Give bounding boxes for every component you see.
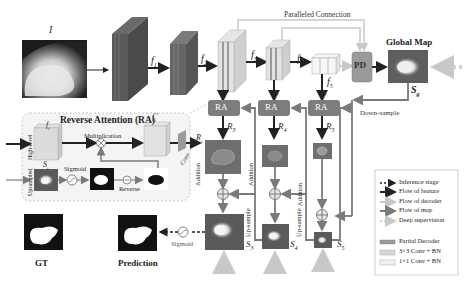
r5-map: [313, 143, 332, 159]
legend-label-inference: Inference stage: [399, 178, 439, 185]
s4-label: S4: [290, 239, 298, 251]
prediction-label: Prediction: [118, 258, 158, 268]
arrow-down-sample: [354, 83, 408, 100]
global-map-image: [388, 50, 428, 83]
multiplication-icon: [97, 139, 106, 148]
s5-map: [314, 232, 332, 248]
addition-4: [270, 189, 281, 200]
ra-sigmoid-label: Sigmoid: [64, 165, 86, 172]
prediction-image: [118, 215, 157, 251]
encoder-block-5: [312, 54, 340, 74]
ra5-label: RA: [315, 102, 328, 112]
sigmoid-icon-bottom: [178, 227, 188, 237]
legend-label-deep-supervision: Deep supervision: [399, 216, 444, 223]
label-f5: f5: [327, 76, 333, 89]
ra-fi-label: fi: [46, 120, 50, 131]
encoder-block-2: [170, 31, 198, 95]
global-map-symbol: Sg: [411, 84, 420, 97]
legend-swatch-partial-decoder: [380, 240, 395, 244]
ra-reverse-icon: [123, 176, 131, 184]
ra-si-map: [34, 169, 58, 191]
label-f3: f3: [251, 49, 257, 62]
ra-sigmoid-icon: [67, 175, 77, 185]
s3-label: S3: [246, 239, 254, 251]
legend-label-map: Flow of map: [399, 206, 432, 213]
legend-label-conv3: 3×3 Conv + BN: [399, 247, 441, 254]
ra-multiplication-label: Multiplication: [84, 132, 121, 139]
parallel-connection-f3: [238, 20, 364, 50]
label-f1: f1: [151, 55, 157, 68]
r3-map: [205, 140, 241, 174]
ra-panel-title: Reverse Attention (RA): [60, 115, 155, 125]
addition-label-4: Addition: [247, 163, 254, 186]
down-sample-label: Down-sample: [360, 109, 399, 117]
ra-fi-prime-cube: [144, 122, 170, 156]
r3-label: R3: [227, 121, 236, 133]
input-label: I: [49, 24, 52, 35]
s3-map: [205, 214, 244, 250]
legend-swatch-conv1: [380, 260, 395, 265]
addition-3: [218, 189, 229, 200]
pd-label: PD: [354, 60, 366, 70]
addition-label-3: Addition: [194, 163, 201, 186]
r5-label: R5: [326, 121, 335, 133]
s5-label: S5: [337, 239, 345, 251]
gt-image: [24, 214, 63, 250]
ra3-label: RA: [215, 102, 228, 112]
r4-label: R4: [278, 121, 287, 133]
upsample-s5-to-ra4: [292, 108, 306, 194]
ra4-label: RA: [265, 102, 278, 112]
legend-label-feature: Flow of feature: [399, 187, 439, 194]
ra-reverse-label: Reverse: [119, 185, 140, 192]
label-f2: f2: [201, 53, 207, 66]
legend-label-conv1: 1×1 Conv + BN: [399, 257, 441, 264]
legend-swatch-conv3: [380, 250, 395, 255]
legend-label-partial-decoder: Partial Decoder: [399, 237, 440, 244]
gt-label: GT: [35, 258, 48, 268]
upsample-label-4: Up-sample: [244, 208, 251, 237]
ra-upsampled-label: Upsampled: [27, 169, 33, 196]
encoder-block-3: [218, 30, 246, 92]
legend-label-decoder: Flow of decoder: [399, 197, 442, 204]
input-image: [22, 40, 87, 98]
ra-si-label: Si: [43, 160, 48, 171]
ra-ri-label: Ri: [196, 133, 202, 144]
encoder-block-4: [266, 40, 290, 80]
parallel-connection-label: Paralleled Connection: [284, 10, 350, 19]
parallel-connection-f4: [282, 28, 360, 50]
ra-sigmoid-mask: [90, 168, 114, 190]
ra-fi-prime-label: fi': [152, 112, 157, 123]
encoder-block-1: [112, 17, 148, 101]
ra-reverse-mask: [144, 168, 168, 190]
global-map-title: Global Map: [386, 37, 432, 47]
upsample-label-5: Up-sample: [295, 208, 302, 237]
s4-map: [262, 224, 289, 249]
addition-label-5: Addition: [296, 183, 303, 206]
ra-high-level-label: High-level: [27, 134, 33, 160]
r4-map: [262, 145, 288, 167]
addition-5: [317, 210, 328, 221]
bottom-sigmoid-label: Sigmoid: [171, 240, 193, 247]
label-f4: f4: [297, 53, 303, 66]
